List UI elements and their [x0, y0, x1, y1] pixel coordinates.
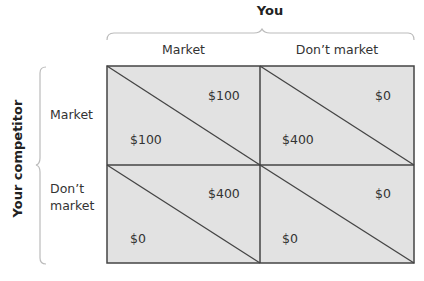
column-player-title: You: [240, 3, 300, 18]
top-bracket: [107, 29, 414, 40]
payoff-competitor-market-dontmarket: $0: [130, 231, 146, 246]
row-player-title: Your competitor: [10, 108, 25, 218]
payoff-you-market-market: $100: [208, 88, 240, 103]
payoff-competitor-dontmarket-dontmarket: $0: [282, 231, 298, 246]
payoff-you-dontmarket-market: $0: [375, 88, 391, 103]
payoff-competitor-market-market: $100: [130, 132, 162, 147]
column-label-dont-market: Don’t market: [260, 42, 414, 57]
row-label-market: Market: [50, 106, 93, 123]
payoff-you-dontmarket-dontmarket: $0: [375, 186, 391, 201]
payoff-competitor-dontmarket-market: $400: [282, 132, 314, 147]
row-label-dont-market-line1: Don’t: [50, 180, 94, 197]
row-label-dont-market: Don’t market: [50, 180, 94, 214]
left-bracket: [36, 67, 46, 264]
row-label-dont-market-line2: market: [50, 197, 94, 214]
payoff-you-market-dontmarket: $400: [208, 186, 240, 201]
column-label-market: Market: [107, 42, 260, 57]
